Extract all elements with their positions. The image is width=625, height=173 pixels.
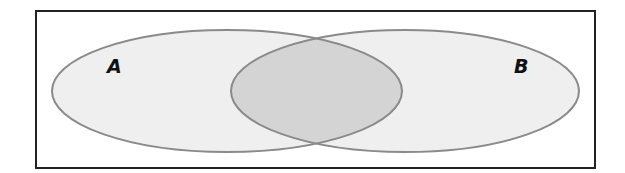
set-a-label: A [105,55,122,77]
venn-diagram: A B [0,0,625,173]
set-b-label: B [514,55,528,77]
